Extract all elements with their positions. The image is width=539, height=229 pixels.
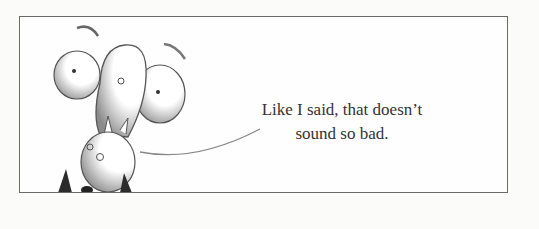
bow-tie xyxy=(81,186,93,193)
head xyxy=(96,45,146,137)
jacket-left xyxy=(58,169,72,193)
comic-panel: Like I said, that doesn’t sound so bad. xyxy=(19,16,508,193)
eye-left xyxy=(54,51,100,99)
caption-line-2: sound so bad. xyxy=(242,122,442,146)
caption-text: Like I said, that doesn’t sound so bad. xyxy=(242,98,442,146)
eyebrow-right-icon xyxy=(164,44,185,59)
caption-line-1: Like I said, that doesn’t xyxy=(242,98,442,122)
eyebrow-left-icon xyxy=(77,27,98,36)
